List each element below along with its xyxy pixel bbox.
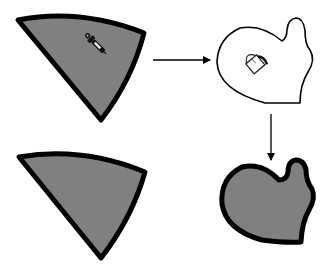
diagram-canvas	[0, 0, 327, 270]
result-wedge	[19, 154, 145, 258]
source-wedge	[18, 16, 144, 120]
result-mitten-filled	[222, 160, 314, 242]
